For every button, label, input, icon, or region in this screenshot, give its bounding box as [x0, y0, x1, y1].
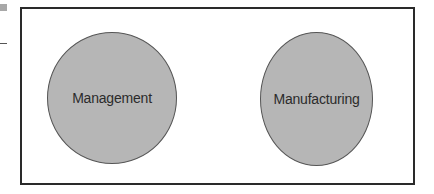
- circle-management: Management: [47, 32, 177, 164]
- circle-manufacturing: Manufacturing: [260, 32, 373, 166]
- circle-label-management: Management: [72, 90, 152, 106]
- circle-label-manufacturing: Manufacturing: [273, 91, 359, 107]
- diagram-frame: Management Manufacturing: [20, 7, 415, 185]
- side-tick-line: [0, 43, 7, 44]
- corner-marker: [0, 4, 7, 11]
